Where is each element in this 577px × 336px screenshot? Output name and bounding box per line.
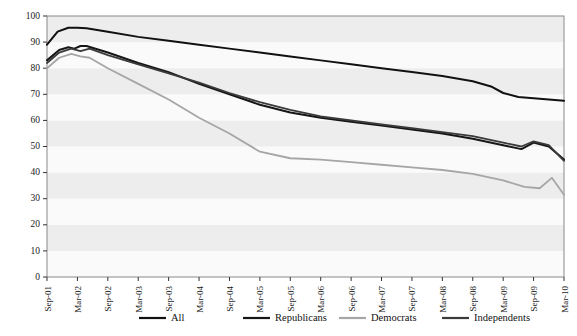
x-axis-tick-label: Mar-03 bbox=[134, 286, 144, 313]
x-axis-tick-label: Sep-08 bbox=[468, 286, 478, 312]
x-axis-tick-label: Sep-06 bbox=[347, 286, 357, 312]
legend-item-all: All bbox=[139, 312, 185, 323]
y-axis-tick-label: 90 bbox=[31, 37, 41, 47]
chart-background-bands bbox=[47, 16, 564, 277]
x-axis-tick-label: Mar-08 bbox=[438, 286, 448, 313]
x-axis-tick-label: Mar-05 bbox=[255, 286, 265, 313]
y-axis-tick-label: 40 bbox=[31, 167, 41, 177]
line-chart: 0102030405060708090100 Sep-01Mar-02Sep-0… bbox=[0, 0, 577, 336]
x-axis-tick-label: Mar-06 bbox=[316, 286, 326, 313]
x-axis-tick-label: Sep-02 bbox=[103, 286, 113, 312]
legend-label: Independents bbox=[474, 312, 530, 323]
y-axis-tick-label: 30 bbox=[31, 193, 41, 203]
y-axis-tick-label: 70 bbox=[31, 89, 41, 99]
x-axis-ticks: Sep-01Mar-02Sep-02Mar-03Sep-03Mar-04Sep-… bbox=[43, 277, 570, 313]
legend-item-democrats: Democrats bbox=[339, 312, 416, 323]
x-axis-tick-label: Sep-07 bbox=[407, 286, 417, 312]
x-axis-tick-label: Mar-02 bbox=[73, 286, 83, 313]
legend-label: Republicans bbox=[275, 312, 327, 323]
y-axis-tick-label: 60 bbox=[31, 115, 41, 125]
x-axis-tick-label: Mar-10 bbox=[560, 286, 570, 313]
y-axis-tick-label: 20 bbox=[31, 219, 41, 229]
y-axis-tick-label: 80 bbox=[31, 63, 41, 73]
x-axis-tick-label: Sep-03 bbox=[164, 286, 174, 312]
y-axis-tick-label: 0 bbox=[35, 272, 40, 282]
x-axis-tick-label: Sep-04 bbox=[225, 286, 235, 312]
y-axis-tick-label: 100 bbox=[26, 11, 41, 21]
x-axis-tick-label: Mar-09 bbox=[499, 286, 509, 313]
x-axis-tick-label: Mar-07 bbox=[377, 286, 387, 313]
x-axis-tick-label: Mar-04 bbox=[195, 286, 205, 313]
y-axis-ticks: 0102030405060708090100 bbox=[26, 11, 47, 282]
x-axis-tick-label: Sep-05 bbox=[286, 286, 296, 312]
legend-item-independents: Independents bbox=[442, 312, 530, 323]
legend-label: All bbox=[171, 312, 185, 323]
legend-label: Democrats bbox=[371, 312, 416, 323]
x-axis-tick-label: Sep-01 bbox=[43, 286, 53, 312]
y-axis-tick-label: 50 bbox=[31, 141, 41, 151]
chart-container: 0102030405060708090100 Sep-01Mar-02Sep-0… bbox=[0, 0, 577, 336]
y-axis-tick-label: 10 bbox=[31, 246, 41, 256]
x-axis-tick-label: Sep-09 bbox=[529, 286, 539, 312]
